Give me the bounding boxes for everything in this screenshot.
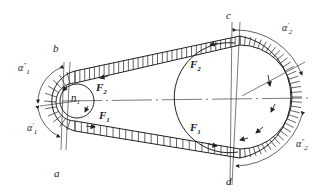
label-b: b [53, 43, 59, 54]
label-alpha2-dprime: α″2 [296, 138, 308, 152]
label-F2-left: F2 [96, 82, 107, 96]
label-a: a [54, 168, 60, 179]
label-F1-left: F1 [99, 110, 110, 124]
label-c: c [226, 10, 231, 21]
belt-hatching [44, 36, 302, 158]
center-line [62, 98, 310, 101]
label-n1: n1 [71, 92, 80, 106]
belt-drive-diagram: b a c d n1 F2 F2 F1 F1 α″1 α′1 α′2 α″2 [0, 0, 332, 195]
label-F1-right: F1 [190, 122, 201, 136]
label-alpha1-dprime: α″1 [18, 62, 30, 76]
label-d: d [226, 176, 232, 187]
large-pulley-arc [174, 43, 238, 153]
label-F2-right: F2 [190, 59, 201, 73]
label-alpha2-prime: α′2 [282, 22, 292, 36]
label-alpha1-prime: α′1 [27, 122, 37, 136]
